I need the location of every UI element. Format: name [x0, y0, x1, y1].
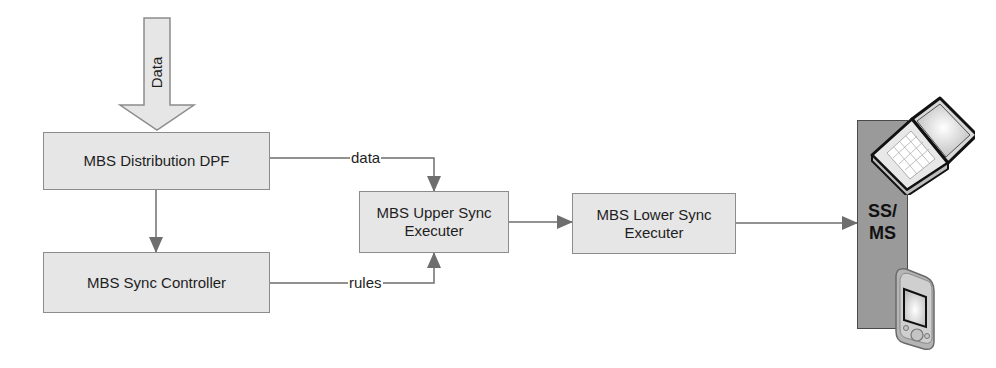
node-label-line2: Executer	[624, 224, 683, 242]
node-label: MBS Distribution DPF	[84, 152, 230, 170]
ss-ms-label: SS/ MS	[857, 200, 908, 244]
node-label-line1: MBS Lower Sync	[596, 206, 711, 224]
node-mbs-upper-sync-executer: MBS Upper Sync Executer	[359, 191, 509, 253]
node-mbs-distribution-dpf: MBS Distribution DPF	[43, 132, 270, 190]
node-label-line2: Executer	[404, 222, 463, 240]
node-label: MBS Sync Controller	[87, 274, 226, 292]
laptop-icon	[855, 95, 975, 195]
node-mbs-lower-sync-executer: MBS Lower Sync Executer	[572, 193, 736, 254]
edge-label-rules: rules	[348, 275, 383, 291]
data-input-label: Data	[146, 42, 168, 102]
pda-icon	[890, 265, 950, 355]
diagram-canvas: Data MBS Distribution DPF MBS Sync Contr…	[0, 0, 996, 368]
node-mbs-sync-controller: MBS Sync Controller	[43, 252, 270, 313]
node-label-line1: MBS Upper Sync	[376, 204, 491, 222]
edge-label-data: data	[350, 150, 381, 166]
